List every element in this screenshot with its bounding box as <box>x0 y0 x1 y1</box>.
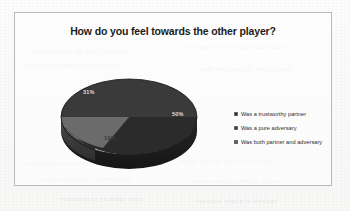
bleed-text-9: analysis of player attitudes <box>196 198 277 204</box>
chart-legend: Was a trustworthy partner Was a pure adv… <box>234 107 322 149</box>
legend-swatch-icon-1 <box>234 126 238 130</box>
slice-label-0: 50% <box>172 111 184 117</box>
legend-item-2[interactable]: Was both partner and adversary <box>234 135 322 149</box>
legend-label-0: Was a trustworthy partner <box>241 111 306 117</box>
slice-label-1: 31% <box>83 89 95 95</box>
legend-item-0[interactable]: Was a trustworthy partner <box>234 107 322 121</box>
pie-chart: 50% 31% 19% <box>57 65 207 169</box>
legend-label-2: Was both partner and adversary <box>241 139 322 145</box>
chart-title: How do you feel towards the other player… <box>15 25 331 37</box>
slice-label-2: 19% <box>104 135 116 141</box>
legend-swatch-icon-2 <box>234 140 238 144</box>
chart-frame: How do you feel towards the other player… <box>14 12 332 186</box>
bleed-text-8: table summary of responses <box>60 196 142 202</box>
legend-swatch-icon-0 <box>234 112 238 116</box>
legend-item-1[interactable]: Was a pure adversary <box>234 121 322 135</box>
pie-chart-svg <box>57 65 207 169</box>
legend-label-1: Was a pure adversary <box>241 125 297 131</box>
